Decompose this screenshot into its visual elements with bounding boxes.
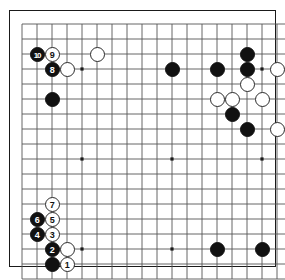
stone-white[interactable] xyxy=(60,242,75,257)
stone-white[interactable] xyxy=(270,62,285,77)
stone-white-move-5[interactable]: 5 xyxy=(45,212,60,227)
stone-white[interactable] xyxy=(225,92,240,107)
stone-black[interactable] xyxy=(240,62,255,77)
stone-black-move-10[interactable]: 10 xyxy=(30,47,45,62)
stone-black[interactable] xyxy=(165,62,180,77)
stone-black[interactable] xyxy=(45,257,60,272)
stone-white-move-7[interactable]: 7 xyxy=(45,197,60,212)
stone-black[interactable] xyxy=(240,122,255,137)
stone-black[interactable] xyxy=(45,92,60,107)
stone-white[interactable] xyxy=(210,92,225,107)
stone-black[interactable] xyxy=(210,62,225,77)
stone-white[interactable] xyxy=(270,122,285,137)
stone-black-move-6[interactable]: 6 xyxy=(30,212,45,227)
stone-black-move-2[interactable]: 2 xyxy=(45,242,60,257)
stone-black-move-4[interactable]: 4 xyxy=(30,227,45,242)
stone-black-move-8[interactable]: 8 xyxy=(45,62,60,77)
stone-black[interactable] xyxy=(225,107,240,122)
stone-white[interactable] xyxy=(240,77,255,92)
go-board-diagram: 10987654321 xyxy=(0,0,285,280)
stone-black[interactable] xyxy=(255,242,270,257)
stone-white[interactable] xyxy=(90,47,105,62)
stone-white-move-1[interactable]: 1 xyxy=(60,257,75,272)
stone-black[interactable] xyxy=(210,242,225,257)
stone-layer: 10987654321 xyxy=(0,0,285,280)
stone-white-move-9[interactable]: 9 xyxy=(45,47,60,62)
stone-white-move-3[interactable]: 3 xyxy=(45,227,60,242)
stone-black[interactable] xyxy=(240,47,255,62)
stone-white[interactable] xyxy=(60,62,75,77)
stone-white[interactable] xyxy=(255,92,270,107)
